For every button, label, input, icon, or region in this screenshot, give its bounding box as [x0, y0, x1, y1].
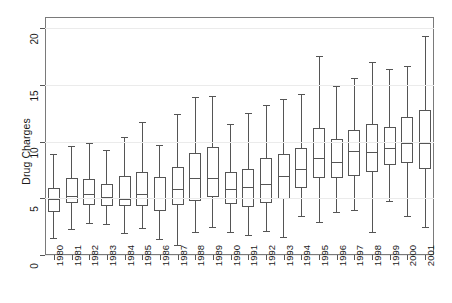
y-tick-label: 5	[29, 198, 41, 220]
x-tick-label: 1992	[266, 245, 278, 279]
y-gridline	[45, 198, 434, 199]
x-tick-label: 1995	[319, 245, 331, 279]
y-tick-label: 10	[29, 142, 41, 164]
y-tick-label: 0	[29, 255, 41, 277]
x-tick-label: 1989	[213, 245, 225, 279]
x-tick-label: 1985	[142, 245, 154, 279]
x-tick-label: 1983	[107, 245, 119, 279]
y-tick-label: 20	[29, 28, 41, 50]
x-tick-label: 1980	[54, 245, 66, 279]
x-tick-label: 1994	[301, 245, 313, 279]
y-gridline	[45, 142, 434, 143]
x-tick-label: 2000	[407, 245, 419, 279]
plot-frame	[45, 17, 434, 255]
x-tick-label: 1981	[72, 245, 84, 279]
y-gridline	[45, 28, 434, 29]
x-tick-label: 1987	[178, 245, 190, 279]
x-tick-label: 2001	[425, 245, 437, 279]
x-tick-label: 1990	[231, 245, 243, 279]
x-tick-label: 1991	[248, 245, 260, 279]
x-tick-label: 1993	[284, 245, 296, 279]
x-tick-label: 1986	[160, 245, 172, 279]
x-tick-label: 1996	[337, 245, 349, 279]
x-tick-label: 1988	[195, 245, 207, 279]
x-tick-label: 1999	[390, 245, 402, 279]
x-tick-label: 1982	[89, 245, 101, 279]
box-plot-figure: Drug Charges 051015201980198119821983198…	[0, 0, 452, 303]
x-tick-label: 1997	[354, 245, 366, 279]
y-gridline	[45, 85, 434, 86]
y-tick-label: 15	[29, 85, 41, 107]
x-tick-label: 1998	[372, 245, 384, 279]
x-tick-label: 1984	[125, 245, 137, 279]
